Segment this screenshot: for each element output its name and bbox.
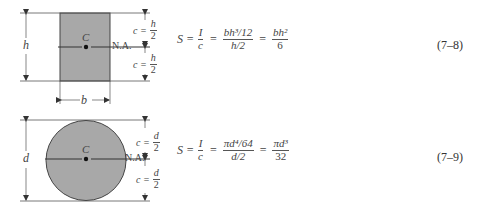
- equation-number: (7–9): [437, 150, 463, 165]
- neutral-axis-label: N.A.: [112, 40, 131, 51]
- section-modulus-equation-rectangle: S = Ic = bh³/12h/2 = bh²6: [177, 27, 291, 51]
- c-top-label: c = h2: [133, 19, 160, 41]
- c-bottom-label: c = d2: [136, 168, 163, 190]
- section-modulus-equation-circle: S = Ic = πd⁴/64d/2 = πd³32: [177, 138, 292, 162]
- height-label: h: [22, 38, 30, 53]
- diameter-label: d: [22, 151, 30, 166]
- centroid-label: C: [82, 31, 89, 43]
- c-bottom-label: c = h2: [133, 53, 160, 75]
- width-label: b: [81, 93, 87, 108]
- centroid-label: C: [82, 143, 89, 155]
- equation-number: (7–8): [437, 38, 463, 53]
- c-top-label: c = d2: [136, 131, 163, 153]
- neutral-axis-label: N.A.: [125, 152, 144, 163]
